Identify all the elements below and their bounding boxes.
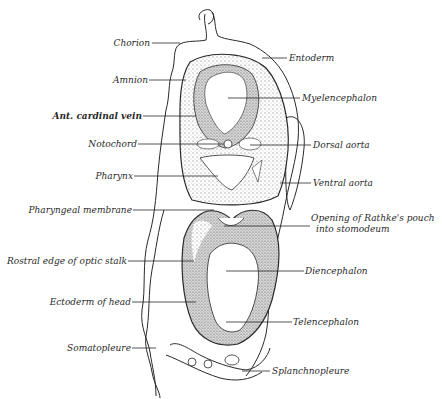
label-splanchnopleure: Splanchnopleure bbox=[272, 366, 349, 377]
label-chorion: Chorion bbox=[62, 38, 150, 49]
label-pharyngeal-membrane: Pharyngeal membrane bbox=[10, 205, 132, 216]
anatomical-drawing bbox=[0, 0, 442, 399]
label-ant-cardinal-vein: Ant. cardinal vein bbox=[20, 111, 142, 122]
label-myelencephalon: Myelencephalon bbox=[302, 93, 377, 104]
hindbrain-block bbox=[180, 54, 288, 205]
label-pharynx: Pharynx bbox=[40, 171, 133, 182]
label-dorsal-aorta: Dorsal aorta bbox=[313, 140, 370, 151]
label-rostral-edge-optic-stalk: Rostral edge of optic stalk bbox=[0, 256, 127, 267]
label-rathkes-pouch-line1: Opening of Rathke's pouch bbox=[311, 213, 434, 224]
label-entoderm: Entoderm bbox=[289, 53, 334, 64]
diagram-stage: Chorion Amnion Ant. cardinal vein Notoch… bbox=[0, 0, 442, 399]
label-notochord: Notochord bbox=[40, 139, 137, 150]
label-ventral-aorta: Ventral aorta bbox=[313, 178, 373, 189]
label-rathkes-pouch-line2: into stomodeum bbox=[316, 224, 390, 235]
label-diencephalon: Diencephalon bbox=[305, 266, 368, 277]
label-amnion: Amnion bbox=[60, 75, 148, 86]
label-telencephalon: Telencephalon bbox=[293, 317, 359, 328]
label-ectoderm-of-head: Ectoderm of head bbox=[20, 297, 131, 308]
forebrain-block bbox=[182, 210, 279, 368]
label-somatopleure: Somatopleure bbox=[30, 343, 131, 354]
